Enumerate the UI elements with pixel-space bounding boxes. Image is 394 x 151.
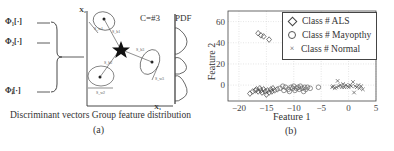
svg-text:60: 60 bbox=[216, 17, 226, 27]
legend: Class # ALS Class # Mayopthy × Class # N… bbox=[282, 12, 377, 60]
x-marker-icon: × bbox=[288, 45, 296, 53]
diamond-marker-icon bbox=[288, 16, 298, 26]
x-axis-label: Feature 1 bbox=[273, 111, 311, 122]
y-axis-label: Feature 2 bbox=[206, 43, 217, 81]
panel-b-sublabel: (b) bbox=[285, 125, 297, 136]
svg-text:5: 5 bbox=[374, 103, 379, 113]
svg-text:−20: −20 bbox=[232, 103, 247, 113]
svg-text:0: 0 bbox=[346, 103, 351, 113]
svg-text:40: 40 bbox=[216, 38, 226, 48]
svg-text:20: 20 bbox=[216, 59, 226, 69]
legend-item-mayopthy: Class # Mayopthy bbox=[288, 30, 371, 40]
svg-text:−5: −5 bbox=[316, 103, 326, 113]
legend-item-normal: × Class # Normal bbox=[288, 44, 360, 54]
legend-item-als: Class # ALS bbox=[289, 16, 350, 26]
circle-marker-icon bbox=[288, 31, 296, 39]
svg-text:−15: −15 bbox=[259, 103, 274, 113]
svg-text:0: 0 bbox=[221, 80, 226, 90]
